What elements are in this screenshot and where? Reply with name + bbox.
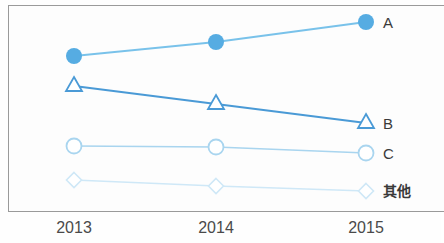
marker-open-diamond — [67, 173, 82, 188]
marker-open-circle — [359, 146, 374, 161]
legend-label-b: B — [383, 116, 393, 131]
x-tick-2015: 2015 — [336, 220, 396, 236]
marker-open-diamond — [209, 179, 224, 194]
marker-open-diamond — [359, 184, 374, 199]
series-a-markers — [66, 14, 374, 64]
marker-open-circle — [67, 139, 82, 154]
x-tick-2013: 2013 — [44, 220, 104, 236]
series-b — [66, 77, 374, 128]
series-a — [66, 14, 374, 64]
marker-open-triangle — [66, 77, 82, 91]
series-other — [67, 173, 374, 199]
x-tick-2014: 2014 — [186, 220, 246, 236]
legend-label-c: C — [383, 146, 394, 161]
series-b-markers — [66, 77, 374, 128]
marker-open-circle — [209, 140, 224, 155]
series-other-markers — [67, 173, 374, 199]
marker-open-triangle — [208, 95, 224, 109]
marker-open-triangle — [358, 114, 374, 128]
series-c-markers — [67, 139, 374, 161]
marker-filled-circle — [66, 48, 82, 64]
marker-filled-circle — [358, 14, 374, 30]
legend-label-other: 其他 — [383, 184, 411, 198]
marker-filled-circle — [208, 34, 224, 50]
legend-label-a: A — [383, 15, 393, 30]
x-axis: 2013 2014 2015 — [0, 216, 441, 243]
series-c — [67, 139, 374, 161]
